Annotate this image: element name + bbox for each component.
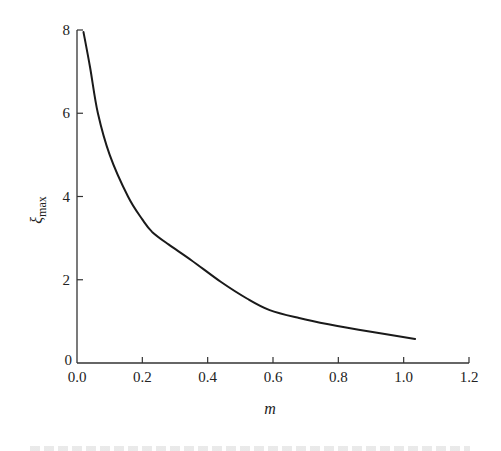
data-line [84,32,416,339]
y-axis-label-sub: max [35,196,49,217]
x-tick-label: 0.0 [68,369,87,385]
y-tick-label: 2 [63,272,71,288]
x-tick-label: 1.2 [460,369,479,385]
x-tick-label: 0.6 [264,369,283,385]
y-tick-label: 6 [63,105,71,121]
x-tick-label: 1.0 [394,369,413,385]
figure-caption-cropped [30,446,470,451]
x-tick-label: 0.8 [329,369,348,385]
y-axis-label: ξmax [28,196,49,224]
x-axis-label: m [264,400,276,417]
y-tick-label: 8 [63,22,71,38]
x-ticks: 0.00.20.40.60.81.01.2 [68,357,479,385]
y-tick-label: 0 [65,352,73,368]
x-tick-label: 0.2 [133,369,152,385]
y-tick-label: 4 [63,189,71,205]
chart: 02468 0.00.20.40.60.81.01.2 m ξmax [0,0,501,451]
axes [77,30,469,363]
x-tick-label: 0.4 [198,369,217,385]
y-ticks: 02468 [63,22,84,368]
